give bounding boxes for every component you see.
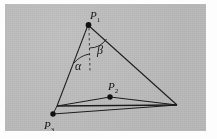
angle-label-alpha: α	[75, 60, 81, 72]
point-label-p2-letter: P	[108, 80, 115, 92]
segment-p1-to-left-vertex	[57, 25, 88, 106]
segment-p1-to-right-vertex	[88, 25, 177, 105]
point-label-p3-letter: P	[44, 119, 51, 131]
point-label-p1-subscript: 1	[97, 16, 101, 24]
point-dot-p3	[50, 111, 55, 116]
point-label-p1: P1	[90, 10, 100, 24]
geometry-diagram-svg	[5, 4, 206, 131]
figure-root: P1 P2 P3 α β	[0, 0, 217, 139]
point-label-p2: P2	[108, 81, 118, 95]
point-label-p1-letter: P	[90, 9, 97, 21]
point-label-p3: P3	[44, 120, 54, 131]
angle-label-beta: β	[97, 44, 103, 56]
diagram-panel: P1 P2 P3 α β	[5, 4, 206, 131]
segment-left-vertex-to-p2	[57, 97, 110, 106]
point-label-p2-subscript: 2	[115, 87, 119, 95]
dashed-reference-axis	[89, 28, 90, 72]
point-label-p3-subscript: 3	[51, 126, 55, 131]
segment-p2-to-right-vertex	[110, 97, 177, 105]
